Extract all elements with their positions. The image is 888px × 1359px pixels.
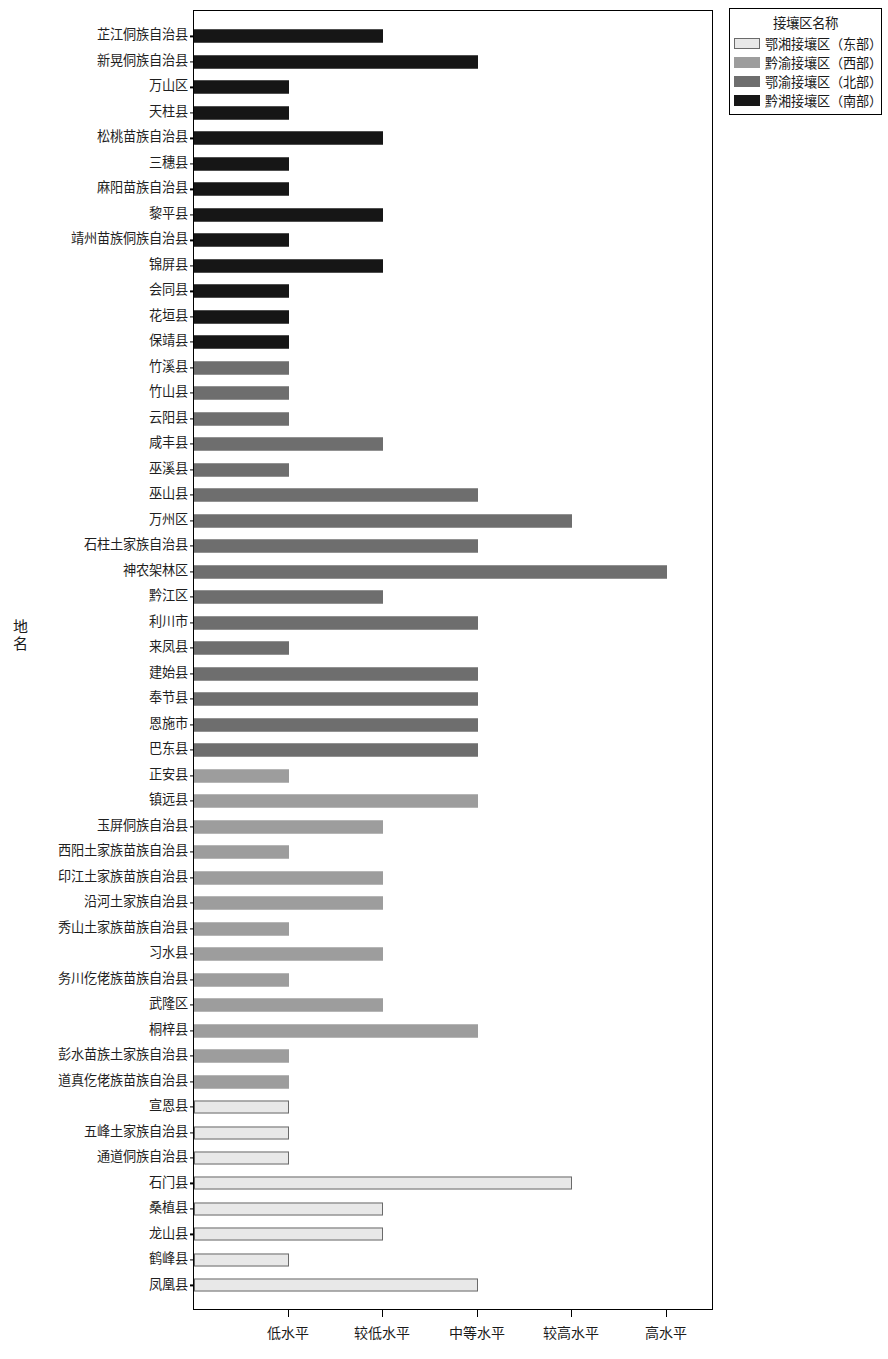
y-axis-category-label: 巴东县 [149,743,188,756]
bar-row [194,790,712,812]
bar[interactable] [194,820,383,833]
legend-entry[interactable]: 鄂湘接壤区（东部） [734,34,877,53]
bar[interactable] [194,1075,289,1088]
bar[interactable] [194,361,289,374]
bar-row [194,561,712,583]
legend-entry[interactable]: 黔渝接壤区（西部） [734,53,877,72]
bar-row [194,306,712,328]
bar[interactable] [194,208,383,221]
bar[interactable] [194,744,478,757]
legend-title: 接壤区名称 [734,12,877,32]
bar[interactable] [194,1101,289,1114]
bar-row [194,1173,712,1195]
y-axis-category-label: 印江土家族苗族自治县 [58,870,188,883]
bar[interactable] [194,489,478,502]
bar[interactable] [194,718,478,731]
y-axis-category-label: 云阳县 [149,411,188,424]
bar[interactable] [194,667,478,680]
bar[interactable] [194,999,383,1012]
bar[interactable] [194,1024,478,1037]
bar[interactable] [194,1151,289,1164]
bar[interactable] [194,30,383,43]
bar-row [194,127,712,149]
bar-row [194,510,712,532]
bar[interactable] [194,1253,289,1266]
bar-row [194,765,712,787]
bar-row [194,1122,712,1144]
bar[interactable] [194,973,289,986]
bar-row [194,178,712,200]
bar[interactable] [194,1228,383,1241]
y-axis-category-label: 桑植县 [149,1201,188,1214]
x-axis-tick [477,1310,478,1317]
bar[interactable] [194,1202,383,1215]
bar[interactable] [194,616,478,629]
x-axis-tick-label: 中等水平 [449,1322,505,1342]
bar[interactable] [194,132,383,145]
y-axis-category-label: 巫溪县 [149,462,188,475]
bar[interactable] [194,897,383,910]
bar-row [194,943,712,965]
legend-entry[interactable]: 鄂渝接壤区（北部） [734,72,877,91]
bar[interactable] [194,591,383,604]
bar[interactable] [194,1050,289,1063]
y-axis-category-label: 锦屏县 [149,258,188,271]
bar[interactable] [194,540,478,553]
bar[interactable] [194,336,289,349]
legend-swatch-icon [734,76,760,87]
bar[interactable] [194,157,289,170]
legend: 接壤区名称 鄂湘接壤区（东部）黔渝接壤区（西部）鄂渝接壤区（北部）黔湘接壤区（南… [729,8,882,115]
bar[interactable] [194,514,572,527]
bar-row [194,280,712,302]
x-axis-tick [382,1310,383,1317]
bar[interactable] [194,795,478,808]
bar-row [194,433,712,455]
bar[interactable] [194,1279,478,1292]
bar[interactable] [194,234,289,247]
bar-row [194,1224,712,1246]
bar[interactable] [194,565,667,578]
y-axis-category-label: 咸丰县 [149,437,188,450]
y-axis-category-label: 玉屏侗族自治县 [97,819,188,832]
bar[interactable] [194,922,289,935]
legend-entry[interactable]: 黔湘接壤区（南部） [734,91,877,110]
bar[interactable] [194,846,289,859]
y-axis-category-label: 武隆区 [149,998,188,1011]
legend-entry-label: 鄂湘接壤区（东部） [765,34,882,53]
bar[interactable] [194,310,289,323]
y-axis-category-label: 西阳土家族苗族自治县 [58,845,188,858]
bar[interactable] [194,438,383,451]
bar[interactable] [194,642,289,655]
legend-swatch-icon [734,57,760,68]
bar[interactable] [194,1177,572,1190]
bar[interactable] [194,871,383,884]
bar[interactable] [194,259,383,272]
bar[interactable] [194,412,289,425]
bar-row [194,918,712,940]
y-axis-category-label: 松桃苗族自治县 [97,131,188,144]
legend-entry-label: 鄂渝接壤区（北部） [765,72,882,91]
bar[interactable] [194,285,289,298]
bar[interactable] [194,948,383,961]
bar[interactable] [194,55,478,68]
y-axis-category-label: 三穗县 [149,156,188,169]
bar[interactable] [194,769,289,782]
y-axis-category-label: 沿河土家族自治县 [84,896,188,909]
bar[interactable] [194,183,289,196]
y-axis-category-label: 来凤县 [149,641,188,654]
bar[interactable] [194,693,478,706]
bar-row [194,586,712,608]
bar[interactable] [194,387,289,400]
bar[interactable] [194,81,289,94]
y-axis-category-label: 新晃侗族自治县 [97,54,188,67]
bar[interactable] [194,106,289,119]
bar-row [194,204,712,226]
x-axis-tick-label: 较高水平 [543,1322,599,1342]
bar[interactable] [194,1126,289,1139]
bar-row [194,1275,712,1297]
bar-row [194,484,712,506]
y-axis-category-labels: 芷江侗族自治县新晃侗族自治县万山区天柱县松桃苗族自治县三穗县麻阳苗族自治县黎平县… [0,10,188,1310]
x-axis-tick-label: 较低水平 [354,1322,410,1342]
bar[interactable] [194,463,289,476]
x-axis-tick [571,1310,572,1317]
